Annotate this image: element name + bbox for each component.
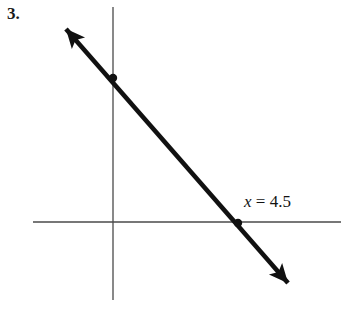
equation-value: 4.5 <box>270 192 291 211</box>
equation-variable: x <box>244 192 252 211</box>
coordinate-graph <box>0 0 346 311</box>
y-intercept-point <box>109 74 117 82</box>
figure-container: 3. x = 4.5 <box>0 0 346 311</box>
equation-annotation: x = 4.5 <box>244 192 291 212</box>
plotted-line <box>66 29 288 283</box>
equation-equals: = <box>252 192 270 211</box>
x-intercept-point <box>234 219 242 227</box>
